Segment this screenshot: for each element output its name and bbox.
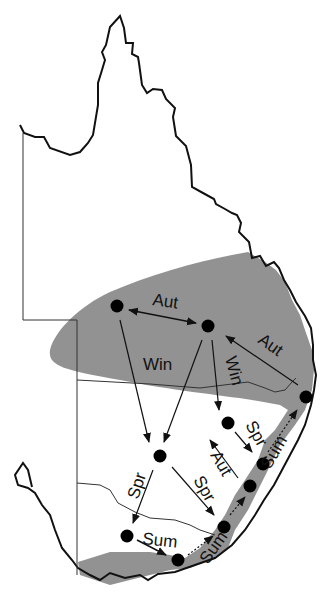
label-spr-mid: Spr (190, 473, 220, 506)
label-aut-mid: Aut (207, 448, 236, 480)
site-dot (202, 320, 215, 333)
site-dot (300, 391, 313, 404)
site-dot (244, 480, 257, 493)
label-aut-top: Aut (151, 290, 179, 312)
site-dot (111, 300, 124, 313)
site-dot (154, 450, 167, 463)
label-win-left: Win (143, 355, 172, 374)
site-dot (121, 530, 134, 543)
label-spr-left: Spr (124, 470, 150, 501)
shaded-range-north (50, 252, 314, 585)
migration-map: Aut Aut Win Win Spr Sum Aut Spr Spr Sum … (0, 0, 332, 604)
label-sum-bottom: Sum (142, 529, 179, 552)
state-border-nsw-vic (77, 483, 215, 535)
site-dot (172, 554, 185, 567)
site-dot (222, 417, 235, 430)
